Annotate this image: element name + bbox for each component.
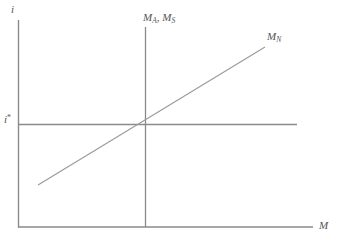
equilibrium-rate-label: i* — [4, 114, 11, 125]
vertical-axis-label-text: i — [11, 3, 14, 15]
money-market-diagram: i i* MA, MS MN M — [0, 0, 337, 239]
net-money-demand-line — [38, 47, 265, 185]
money-stock-label-base-a: M — [143, 11, 152, 23]
net-money-label-sub: N — [276, 35, 281, 44]
diagram-canvas — [0, 0, 337, 239]
horizontal-axis-label-text: M — [319, 219, 328, 231]
net-money-demand-label: MN — [267, 31, 281, 42]
net-money-label-base: M — [267, 30, 276, 42]
money-stock-line-label: MA, MS — [143, 12, 175, 23]
equilibrium-rate-label-star: * — [7, 113, 11, 122]
money-stock-label-sub-s: S — [171, 16, 175, 25]
vertical-axis-label: i — [11, 4, 14, 15]
horizontal-axis-label: M — [319, 220, 328, 231]
